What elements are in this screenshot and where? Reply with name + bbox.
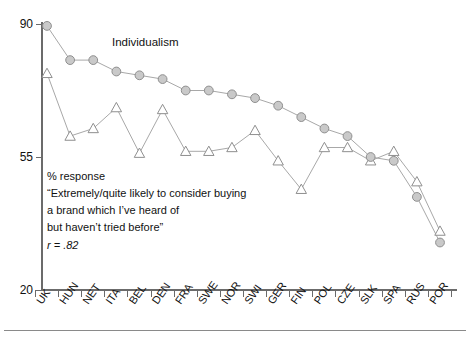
data-point-triangle-cze: [342, 142, 352, 151]
x-tick-labels: UKHUNNETITABELDENFRASWENORSWIGERFINPOLCZ…: [34, 279, 451, 306]
x-tick-label-den: DEN: [149, 280, 172, 306]
x-tick-label-uk: UK: [34, 286, 53, 306]
data-point-triangle-pol: [319, 142, 329, 151]
data-point-triangle-por: [435, 226, 445, 235]
data-point-triangle-spa: [389, 146, 399, 155]
x-axis: UKHUNNETITABELDENFRASWENORSWIGERFINPOLCZ…: [34, 279, 457, 306]
data-point-circle-hun: [66, 56, 75, 65]
annotation-line-2: “Extremely/quite likely to consider buyi…: [47, 187, 246, 199]
x-tick-label-fin: FIN: [288, 285, 308, 306]
data-point-circle-spa: [389, 156, 398, 165]
annotation-correlation: r = .82: [47, 239, 79, 251]
y-tick-label-20: 20: [20, 283, 34, 297]
data-point-triangle-rus: [412, 177, 422, 186]
x-tick-label-net: NET: [80, 281, 103, 306]
x-tick-label-swi: SWI: [242, 282, 264, 306]
data-point-circle-swi: [251, 94, 260, 103]
data-point-circle-nor: [228, 90, 237, 99]
data-point-circle-uk: [43, 22, 52, 31]
x-tick-label-cze: CZE: [334, 281, 356, 306]
data-point-triangle-nor: [227, 142, 237, 151]
series-label-individualism: Individualism: [112, 36, 178, 48]
data-point-circle-slk: [366, 153, 375, 162]
x-tick-label-hun: HUN: [57, 280, 81, 306]
data-point-circle-net: [89, 56, 98, 65]
y-axis: 90 55 20: [20, 17, 42, 297]
data-point-circle-fra: [181, 86, 190, 95]
chart-figure: 90 55 20 UKHUNNETITABELDENFRASWENORSWIGE…: [0, 0, 470, 338]
x-tick-label-ita: ITA: [103, 285, 123, 306]
data-point-circle-ger: [274, 101, 283, 110]
data-point-triangle-fra: [181, 146, 191, 155]
data-point-triangle-ita: [111, 102, 121, 111]
x-tick-label-por: POR: [427, 280, 451, 306]
y-tick-label-55: 55: [20, 150, 34, 164]
x-tick-label-slk: SLK: [357, 282, 379, 306]
x-tick-label-swe: SWE: [196, 279, 220, 306]
y-tick-label-90: 90: [20, 17, 34, 31]
data-point-circle-rus: [412, 193, 421, 202]
data-point-triangle-den: [157, 104, 167, 113]
data-point-circle-bel: [135, 71, 144, 80]
data-point-circle-fin: [297, 113, 306, 122]
data-point-triangle-ger: [273, 156, 283, 165]
data-point-circle-cze: [343, 132, 352, 141]
data-point-circle-pol: [320, 124, 329, 133]
annotation-line-4: but haven’t tried before”: [47, 221, 164, 233]
annotation-block: % response “Extremely/quite likely to co…: [47, 170, 246, 251]
data-point-circle-swe: [204, 86, 213, 95]
x-tick-label-fra: FRA: [173, 281, 196, 306]
x-tick-label-bel: BEL: [126, 282, 148, 306]
x-tick-label-ger: GER: [265, 280, 289, 306]
data-point-triangle-hun: [65, 131, 75, 140]
data-point-triangle-bel: [134, 148, 144, 157]
x-tick-label-pol: POL: [311, 281, 333, 306]
line-chart-svg: 90 55 20 UKHUNNETITABELDENFRASWENORSWIGE…: [0, 0, 470, 338]
bottom-divider: [4, 330, 466, 331]
data-point-triangle-uk: [42, 68, 52, 77]
x-tick-label-rus: RUS: [404, 280, 427, 306]
x-tick-label-spa: SPA: [381, 281, 403, 306]
annotation-line-1: % response: [47, 170, 105, 182]
data-point-triangle-swi: [250, 125, 260, 134]
data-point-circle-den: [158, 75, 167, 84]
x-tick-label-nor: NOR: [219, 279, 243, 306]
data-point-circle-ita: [112, 67, 121, 76]
annotation-line-3: a brand which I’ve heard of: [47, 204, 180, 216]
data-point-circle-por: [436, 238, 445, 247]
